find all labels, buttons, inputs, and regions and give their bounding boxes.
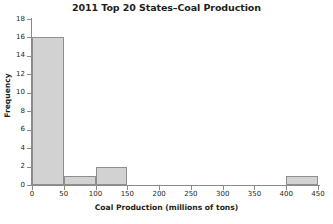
x-tick-label: 50 — [49, 191, 79, 198]
y-tick — [27, 185, 31, 186]
histogram-bar — [96, 167, 128, 185]
x-axis-title: Coal Production (millions of tons) — [0, 203, 333, 212]
plot-area — [32, 19, 318, 185]
y-tick — [27, 148, 31, 149]
x-tick-label: 400 — [271, 191, 301, 198]
x-axis-line — [32, 185, 320, 186]
y-tick — [27, 167, 31, 168]
y-tick — [27, 19, 31, 20]
x-tick-label: 450 — [303, 191, 333, 198]
x-tick-label: 100 — [81, 191, 111, 198]
y-tick — [27, 111, 31, 112]
y-tick-label: 14 — [6, 52, 25, 59]
x-tick-label: 200 — [144, 191, 174, 198]
y-tick — [27, 56, 31, 57]
y-axis-title: Frequency — [3, 66, 12, 126]
y-tick-label: 4 — [6, 145, 25, 152]
y-tick — [27, 74, 31, 75]
chart-title: 2011 Top 20 States–Coal Production — [0, 2, 333, 13]
x-tick-label: 350 — [239, 191, 269, 198]
histogram-figure: 2011 Top 20 States–Coal Production 02468… — [0, 0, 333, 224]
x-tick-label: 150 — [112, 191, 142, 198]
histogram-bar — [286, 176, 318, 185]
y-tick — [27, 130, 31, 131]
y-tick — [27, 37, 31, 38]
y-tick-label: 2 — [6, 163, 25, 170]
y-tick-label: 0 — [6, 182, 25, 189]
x-tick-label: 250 — [176, 191, 206, 198]
x-tick-label: 0 — [17, 191, 47, 198]
y-tick-label: 6 — [6, 126, 25, 133]
histogram-bar — [32, 37, 64, 185]
histogram-bar — [64, 176, 96, 185]
y-tick-label: 18 — [6, 16, 25, 23]
y-tick — [27, 93, 31, 94]
x-tick-label: 300 — [208, 191, 238, 198]
y-tick-label: 16 — [6, 34, 25, 41]
